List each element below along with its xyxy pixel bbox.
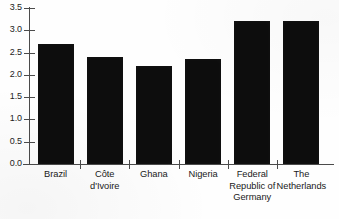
- x-axis-tick: [179, 160, 180, 169]
- y-axis-tick-label: 1.0: [0, 113, 22, 123]
- y-axis-tick-label: 2.5: [0, 47, 22, 57]
- x-axis-category-labels: BrazilCôted'IvoireGhanaNigeriaFederalRep…: [0, 169, 339, 219]
- y-axis-tick-label: 2.0: [0, 69, 22, 79]
- plot-area: [29, 8, 333, 164]
- y-axis-tick-label: 1.5: [0, 91, 22, 101]
- bar: [136, 66, 172, 164]
- bar: [87, 57, 123, 164]
- x-axis-label-line: Netherlands: [271, 181, 332, 193]
- x-axis-category-label: TheNetherlands: [271, 169, 332, 192]
- y-axis-tick: [24, 164, 35, 165]
- x-axis-tick: [80, 160, 81, 169]
- x-axis-tick: [129, 160, 130, 169]
- y-axis-tick-label: 0.5: [0, 136, 22, 146]
- x-axis-tick: [277, 160, 278, 169]
- bar: [38, 44, 74, 164]
- y-axis-tick-label: 3.0: [0, 24, 22, 34]
- x-axis-label-line: Germany: [222, 192, 283, 204]
- x-axis-label-line: d'Ivoire: [74, 181, 135, 193]
- x-axis-tick: [228, 160, 229, 169]
- y-axis-tick-label: 0.0: [0, 158, 22, 168]
- x-axis-label-line: The: [271, 169, 332, 181]
- bar: [234, 21, 270, 164]
- bar-chart-figure: 0.00.51.01.52.02.53.03.5 BrazilCôted'Ivo…: [0, 0, 339, 219]
- y-axis-tick-label: 3.5: [0, 2, 22, 12]
- bar: [283, 21, 319, 164]
- bar: [185, 59, 221, 164]
